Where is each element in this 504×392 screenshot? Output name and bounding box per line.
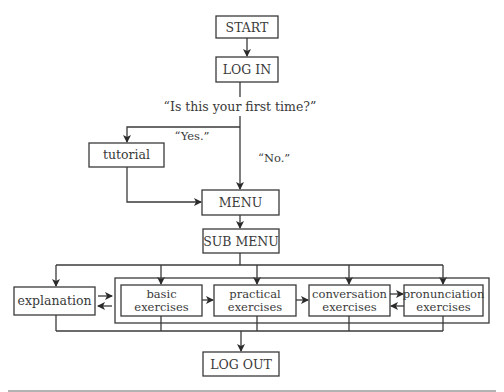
- basic-label-line1: basic: [146, 287, 176, 301]
- logout-label: LOG OUT: [210, 357, 272, 372]
- conversation-exercises-node: conversation exercises: [309, 285, 390, 316]
- start-label: START: [226, 20, 269, 35]
- tutorial-node: tutorial: [89, 143, 164, 167]
- submenu-label: SUB MENU: [203, 234, 279, 249]
- conversation-label-line2: exercises: [322, 300, 376, 314]
- flowchart-diagram: START LOG IN “Is this your first time?” …: [0, 0, 504, 392]
- login-label: LOG IN: [223, 62, 271, 77]
- menu-node: MENU: [202, 190, 279, 215]
- practical-label-line2: exercises: [228, 300, 282, 314]
- practical-exercises-node: practical exercises: [214, 285, 296, 316]
- tutorial-label: tutorial: [103, 147, 150, 162]
- no-label: “No.”: [258, 151, 290, 165]
- login-node: LOG IN: [216, 57, 278, 82]
- explanation-node: explanation: [14, 287, 95, 315]
- pronunciation-label-line1: pronunciation: [403, 287, 485, 301]
- pronunciation-exercises-node: pronunciation exercises: [403, 285, 485, 316]
- arrow-tutorial-to-menu: [127, 167, 201, 202]
- question-label: “Is this your first time?”: [164, 99, 317, 114]
- yes-label: “Yes.”: [174, 129, 209, 143]
- basic-exercises-node: basic exercises: [121, 285, 202, 316]
- basic-label-line2: exercises: [134, 300, 188, 314]
- conversation-label-line1: conversation: [312, 287, 388, 301]
- pronunciation-label-line2: exercises: [416, 300, 470, 314]
- menu-label: MENU: [219, 195, 262, 210]
- explanation-label: explanation: [18, 293, 92, 308]
- start-node: START: [216, 16, 278, 38]
- submenu-node: SUB MENU: [203, 229, 279, 253]
- logout-node: LOG OUT: [203, 352, 279, 376]
- practical-label-line1: practical: [229, 287, 281, 301]
